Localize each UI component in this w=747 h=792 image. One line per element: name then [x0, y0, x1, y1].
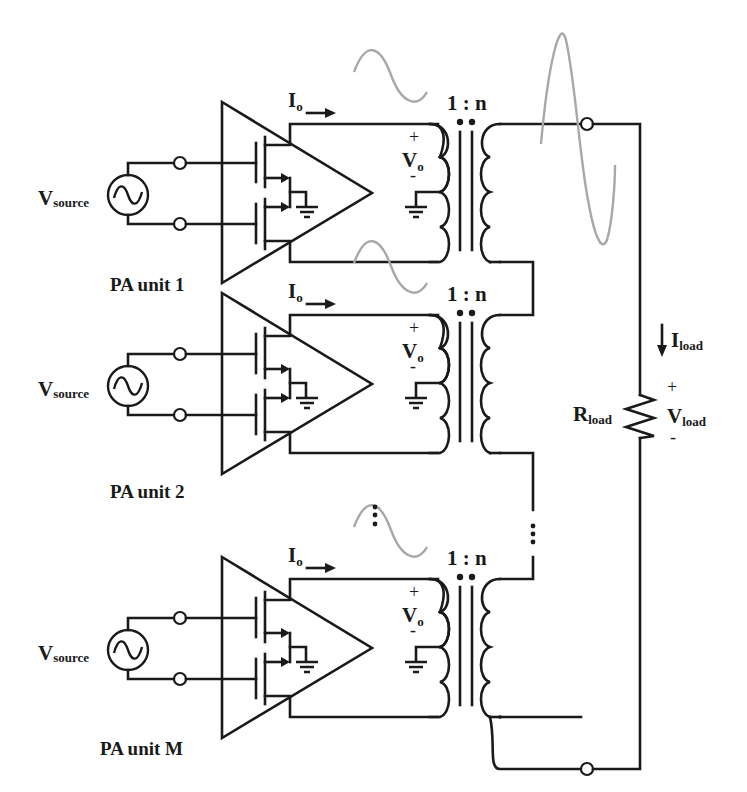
vload-minus: - [670, 427, 676, 447]
pa-unit-2: PA unit 2 Vsource [38, 241, 500, 502]
vload-plus: + [667, 377, 677, 397]
secondary-series-chain [500, 118, 640, 717]
source-label-2: Vsource [38, 377, 89, 401]
pa-unit-1: PA unit 1 Vsource [38, 50, 500, 295]
rload-label: Rload [573, 402, 613, 427]
iload-label: Iload [671, 328, 704, 353]
source-label-m: Vsource [38, 641, 89, 665]
source-label-1: Vsource [38, 186, 89, 210]
pa-unit-m: PA unit M Vsource [38, 505, 500, 759]
pa-unit-1-label: PA unit 1 [110, 274, 185, 295]
pa-unit-2-label: PA unit 2 [110, 481, 185, 502]
ellipsis-units [373, 505, 378, 527]
iload-indicator: Iload [657, 325, 704, 357]
output-waveform [541, 34, 615, 245]
pa-unit-m-label: PA unit M [100, 738, 183, 759]
vload-label: Vload [667, 404, 707, 429]
circuit-diagram: Io + Vo - 1 : n [0, 0, 747, 792]
load-loop-bottom [490, 438, 640, 775]
